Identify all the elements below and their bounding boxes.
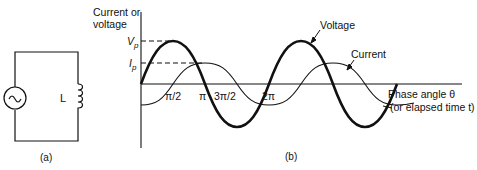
current-label: Current <box>351 48 386 60</box>
tick-2pi: 2π <box>262 90 275 102</box>
tick-pi: π <box>199 90 206 102</box>
caption-a: (a) <box>40 152 52 164</box>
axes <box>141 12 462 148</box>
inductor-label: L <box>60 92 66 104</box>
tick-3pi-2: 3π/2 <box>214 90 236 102</box>
voltage-label: Voltage <box>320 19 355 31</box>
circuit-diagram <box>4 52 83 141</box>
ylabel-line2: voltage <box>93 18 127 30</box>
inductor-icon <box>78 84 83 110</box>
ip-tick: Ip <box>129 57 136 74</box>
sine-glyph-icon <box>9 96 21 102</box>
xlabel-line1: Phase angle θ <box>388 88 455 100</box>
tick-pi-2: π/2 <box>165 90 181 102</box>
xlabel-line2: (or elapsed time t) <box>390 101 475 113</box>
ylabel-line1: Current or <box>93 6 140 18</box>
vp-tick: Vp <box>127 35 138 52</box>
caption-b: (b) <box>285 151 297 163</box>
figure-drawing <box>0 0 477 170</box>
